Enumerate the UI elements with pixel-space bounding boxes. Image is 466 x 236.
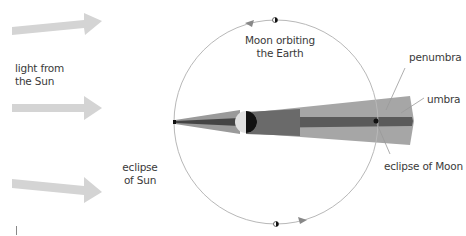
moon-orbiting-label: Moon orbiting the Earth	[240, 34, 320, 60]
eclipse-diagram	[0, 0, 466, 236]
margin-mark	[16, 226, 17, 235]
light-from-sun-line1: light from	[15, 62, 64, 75]
moon-right-icon	[374, 119, 379, 124]
eclipse-of-moon-label: eclipse of Moon	[384, 160, 463, 173]
earth-icon	[235, 111, 257, 133]
eclipse-of-sun-label: eclipse of Sun	[118, 161, 162, 187]
light-from-sun-label: light from the Sun	[15, 62, 64, 88]
moon-orbiting-line2: the Earth	[240, 47, 320, 60]
sunlight-arrow-bottom-icon	[12, 177, 102, 203]
eclipse-of-sun-line1: eclipse	[118, 161, 162, 174]
moon-left-icon	[173, 120, 176, 124]
penumbra-label: penumbra	[409, 51, 461, 64]
moon-orbiting-line1: Moon orbiting	[240, 34, 320, 47]
orbit-arrow-bottom-icon	[298, 217, 307, 224]
eclipse-of-sun-line2: of Sun	[118, 174, 162, 187]
sunlight-arrow-top-icon	[12, 13, 102, 35]
moon-top-icon	[273, 18, 278, 23]
orbit-arrow-top-icon	[245, 20, 254, 27]
sunlight-arrows	[12, 13, 102, 203]
umbra-label: umbra	[427, 93, 460, 106]
sunlight-arrow-middle-icon	[12, 96, 102, 120]
moon-bottom-icon	[274, 222, 279, 227]
light-from-sun-line2: the Sun	[15, 75, 64, 88]
